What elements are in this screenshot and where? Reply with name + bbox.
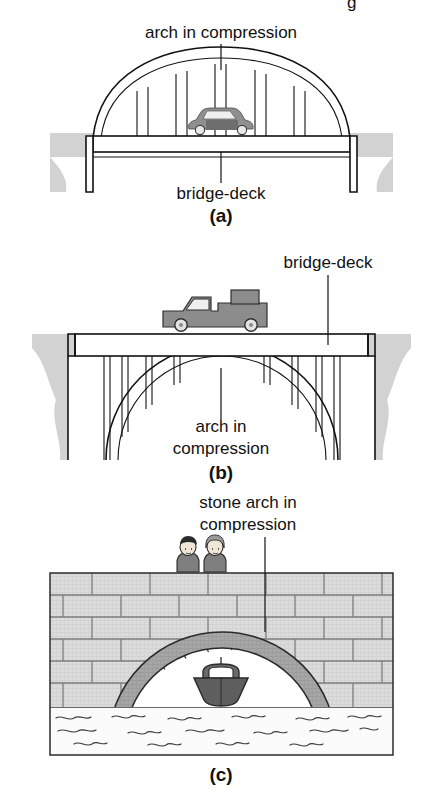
- deck-slab-a: [93, 136, 350, 152]
- pier-right-fill-a: [350, 136, 357, 192]
- deck-slab-fill-b: [75, 334, 368, 356]
- cropped-heading-fragment: g: [347, 0, 356, 12]
- arch-bridge-figure: g: [0, 0, 443, 792]
- pier-left-fill-a: [86, 136, 93, 192]
- truck-hub-rear: [249, 323, 253, 327]
- car-windows: [203, 111, 236, 119]
- stone-arch-label-c-line1: stone arch in: [199, 493, 296, 512]
- water-c: [50, 707, 393, 755]
- boat-cabin-opening: [209, 667, 233, 678]
- car-lower-panel: [206, 120, 238, 130]
- deck-label-a: bridge-deck: [177, 184, 266, 203]
- arch-label-b-line2: compression: [173, 439, 269, 458]
- car-wheel-front: [195, 125, 204, 134]
- arch-label-a: arch in compression: [145, 23, 297, 42]
- truck-hub-front: [179, 323, 183, 327]
- caption-c: (c): [209, 764, 232, 785]
- stone-arch-label-c-line2: compression: [200, 515, 296, 534]
- truck-cargo-box: [231, 290, 259, 304]
- arch-label-b-line1: arch in: [195, 417, 246, 436]
- figure-canvas: g: [0, 0, 443, 792]
- caption-a: (a): [209, 205, 232, 226]
- car-wheel-rear: [237, 125, 246, 134]
- deck-label-b: bridge-deck: [284, 253, 373, 272]
- caption-b: (b): [209, 462, 233, 483]
